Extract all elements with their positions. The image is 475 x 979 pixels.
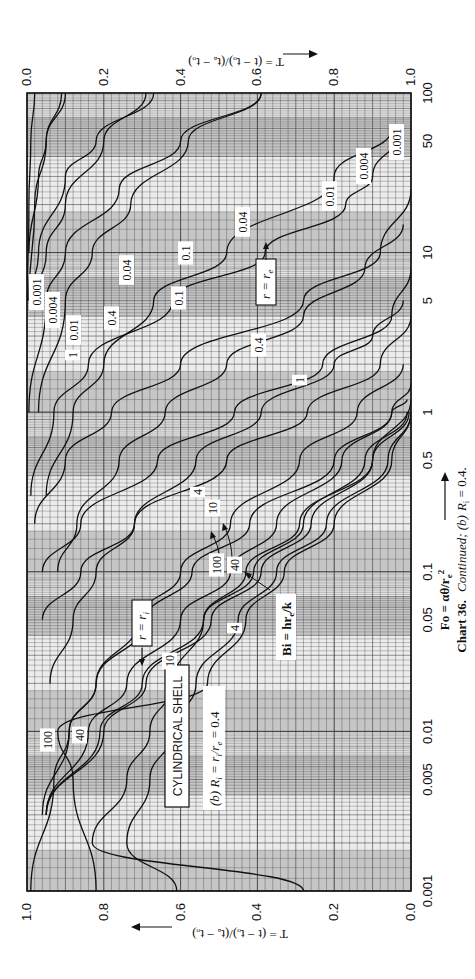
t-outer-tick-label: 0.4 bbox=[173, 68, 188, 86]
svg-text:10: 10 bbox=[206, 502, 220, 514]
svg-text:0.004: 0.004 bbox=[46, 297, 60, 324]
svg-text:0.2: 0.2 bbox=[326, 903, 341, 921]
inner-axis-arrow bbox=[131, 923, 172, 931]
svg-text:40: 40 bbox=[228, 559, 242, 571]
title-box-text: CYLINDRICAL SHELL bbox=[171, 676, 185, 797]
t-inner-tick-label: 0.0 bbox=[403, 903, 418, 921]
outer-label-0.4: 0.4 bbox=[251, 333, 266, 356]
fo-title: Fo = αθ/r bbox=[437, 578, 452, 630]
t-inner-tick-label: 0.2 bbox=[326, 903, 341, 921]
outer-label-0.004: 0.004 bbox=[45, 292, 60, 328]
subtitle: (b) Ri = ri/re = 0.4 bbox=[203, 686, 225, 810]
svg-text:1: 1 bbox=[293, 377, 307, 383]
svg-text:0.8: 0.8 bbox=[96, 903, 111, 921]
label-40: 40 bbox=[227, 557, 242, 574]
title-box: CYLINDRICAL SHELL bbox=[165, 665, 189, 807]
outer-axis-title: T = (t − tₒ)/(tₐ − tₒ) bbox=[188, 55, 284, 70]
svg-text:5: 5 bbox=[420, 297, 435, 304]
fo-tick-label: 0.5 bbox=[420, 451, 435, 469]
inner-label-0.04: 0.04 bbox=[235, 207, 250, 237]
fo-axis-arrow bbox=[441, 472, 449, 520]
t-outer-tick-label: 0.2 bbox=[96, 68, 111, 86]
fo-tick-label: 0.005 bbox=[420, 763, 435, 796]
bi-label: Bi = hre/k bbox=[276, 594, 296, 660]
fo-tick-label: 0.05 bbox=[420, 607, 435, 632]
svg-text:0.5: 0.5 bbox=[420, 451, 435, 469]
svg-text:1.0: 1.0 bbox=[403, 68, 418, 86]
svg-text:1.0: 1.0 bbox=[19, 903, 34, 921]
svg-text:0.005: 0.005 bbox=[420, 763, 435, 796]
svg-text:0.2: 0.2 bbox=[96, 68, 111, 86]
figure-caption: Chart 36.Continued; (b)Ri = 0.4. bbox=[454, 467, 471, 652]
outer-label-0.1: 0.1 bbox=[171, 286, 186, 309]
svg-text:10: 10 bbox=[420, 245, 435, 259]
fo-axis-title: Fo = αθ/re2 bbox=[436, 569, 454, 630]
svg-text:0.0: 0.0 bbox=[403, 903, 418, 921]
inner-label-4: 4 bbox=[227, 623, 242, 633]
outer-label-1: 1 bbox=[292, 375, 307, 385]
outer-label-0.001: 0.001 bbox=[29, 274, 44, 310]
svg-text:0.1: 0.1 bbox=[179, 246, 193, 261]
svg-text:r = re: r = re bbox=[258, 270, 275, 299]
label-100: 100 bbox=[209, 553, 224, 576]
fo-tick-label: 5 bbox=[420, 297, 435, 304]
svg-text:0.1: 0.1 bbox=[420, 563, 435, 581]
inner-axis-title-text: T = (t − tₒ)/(tₐ − tₒ) bbox=[192, 927, 288, 942]
svg-text:Fo = αθ/re2: Fo = αθ/re2 bbox=[436, 569, 454, 630]
svg-text:10: 10 bbox=[163, 655, 177, 667]
inner-label-10: 10 bbox=[162, 653, 177, 670]
svg-text:0.001: 0.001 bbox=[390, 129, 404, 156]
svg-text:4: 4 bbox=[228, 625, 242, 631]
outer-axis-arrow bbox=[283, 50, 318, 58]
fo-tick-label: 0.01 bbox=[420, 719, 435, 744]
inner-label-0.01: 0.01 bbox=[322, 181, 337, 211]
t-outer-tick-label: 1.0 bbox=[403, 68, 418, 86]
transient-temperature-chart: 0.0010.0050.010.050.10.51510501001.00.80… bbox=[0, 0, 475, 979]
inner-label-100: 100 bbox=[40, 728, 55, 751]
fo-tick-label: 1 bbox=[420, 409, 435, 416]
fo-tick-label: 10 bbox=[420, 245, 435, 259]
outer-label-0.01: 0.01 bbox=[66, 315, 81, 345]
inner-label-1: 1 bbox=[65, 350, 80, 360]
svg-text:0.01: 0.01 bbox=[67, 320, 81, 341]
svg-text:Chart 36.Continued; (b)Ri = 0.: Chart 36.Continued; (b)Ri = 0.4. bbox=[454, 467, 471, 652]
svg-text:0.6: 0.6 bbox=[173, 903, 188, 921]
t-inner-tick-label: 0.8 bbox=[96, 903, 111, 921]
inner-label-0.001: 0.001 bbox=[389, 124, 404, 160]
svg-text:100: 100 bbox=[420, 82, 435, 104]
svg-text:0.4: 0.4 bbox=[252, 338, 266, 353]
fo-tick-label: 50 bbox=[420, 134, 435, 148]
r-inner-box: r = ri bbox=[132, 600, 152, 646]
svg-text:0.8: 0.8 bbox=[326, 68, 341, 86]
t-outer-tick-label: 0.8 bbox=[326, 68, 341, 86]
fo-tick-label: 100 bbox=[420, 82, 435, 104]
svg-text:100: 100 bbox=[41, 731, 55, 749]
outer-label-10: 10 bbox=[205, 500, 220, 517]
svg-text:(b) Ri = ri/re = 0.4: (b) Ri = ri/re = 0.4 bbox=[207, 711, 224, 806]
svg-text:0.4: 0.4 bbox=[249, 903, 264, 921]
fo-tick-label: 0.001 bbox=[420, 875, 435, 908]
svg-text:0.001: 0.001 bbox=[30, 279, 44, 306]
svg-text:4: 4 bbox=[191, 489, 205, 495]
t-inner-tick-label: 0.6 bbox=[173, 903, 188, 921]
svg-text:r = ri: r = ri bbox=[134, 612, 151, 640]
svg-text:0.4: 0.4 bbox=[173, 68, 188, 86]
r-outer-box: r = re bbox=[256, 259, 276, 305]
svg-text:0.0: 0.0 bbox=[19, 68, 34, 86]
svg-text:1: 1 bbox=[420, 409, 435, 416]
inner-label-0.1: 0.1 bbox=[178, 241, 193, 264]
svg-text:0.1: 0.1 bbox=[172, 291, 186, 306]
t-inner-tick-label: 0.4 bbox=[249, 903, 264, 921]
svg-text:100: 100 bbox=[210, 556, 224, 574]
svg-text:40: 40 bbox=[73, 729, 87, 741]
svg-text:0.01: 0.01 bbox=[323, 186, 337, 207]
inner-label-0.004: 0.004 bbox=[356, 148, 371, 184]
svg-text:0.004: 0.004 bbox=[357, 153, 371, 180]
inner-axis-title: T = (t − tₒ)/(tₐ − tₒ) bbox=[192, 927, 288, 942]
t-outer-tick-label: 0.0 bbox=[19, 68, 34, 86]
outer-label-0.04: 0.04 bbox=[119, 255, 134, 285]
outer-axis-title-text: T = (t − tₒ)/(tₐ − tₒ) bbox=[188, 55, 284, 70]
svg-text:Bi = hre/k: Bi = hre/k bbox=[279, 601, 296, 656]
svg-text:0.01: 0.01 bbox=[420, 719, 435, 744]
inner-label-0.4: 0.4 bbox=[104, 306, 119, 329]
